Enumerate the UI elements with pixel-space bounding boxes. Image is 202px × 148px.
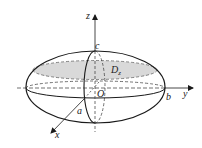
c-label: c xyxy=(95,40,100,51)
equator-front xyxy=(26,88,165,98)
ellipsoid-diagram: z c Dz O a b y x xyxy=(0,0,202,148)
region-subscript: z xyxy=(117,69,121,77)
y-axis-label: y xyxy=(182,88,188,99)
equator-back xyxy=(26,81,165,88)
b-label: b xyxy=(166,91,171,102)
diagram-svg: z c Dz O a b y x xyxy=(0,0,202,148)
a-label: a xyxy=(77,105,82,116)
origin-label: O xyxy=(97,88,104,99)
x-axis-label: x xyxy=(54,129,60,140)
z-axis-label: z xyxy=(85,10,90,21)
